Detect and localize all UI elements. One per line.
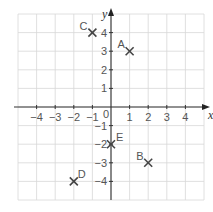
y-tick-label: −1 xyxy=(94,120,107,132)
origin-label: 0 xyxy=(103,108,109,120)
y-tick-label: 2 xyxy=(101,64,107,76)
axes: xy0 xyxy=(14,7,213,200)
coordinate-grid: xy0 −4−3−2−11234−4−3−2−11234 ABCDE xyxy=(0,0,213,212)
point-B: B xyxy=(136,150,152,167)
y-tick-label: 1 xyxy=(101,82,107,94)
y-axis-label: y xyxy=(101,7,108,21)
x-tick-label: 3 xyxy=(164,111,170,123)
y-tick-label: 3 xyxy=(101,45,107,57)
point-label: B xyxy=(136,150,143,162)
point-label: D xyxy=(78,168,86,180)
x-tick-label: 4 xyxy=(182,111,188,123)
x-tick-label: −2 xyxy=(68,111,81,123)
point-label: C xyxy=(79,20,87,32)
y-tick-label: 4 xyxy=(101,27,107,39)
y-tick-label: −2 xyxy=(94,138,107,150)
x-tick-label: 2 xyxy=(145,111,151,123)
point-C: C xyxy=(79,20,96,37)
point-label: E xyxy=(116,131,123,143)
y-axis-arrow-icon xyxy=(108,8,114,16)
y-tick-label: −4 xyxy=(94,175,107,187)
point-label: A xyxy=(118,38,126,50)
x-axis-label: x xyxy=(207,108,213,122)
point-A: A xyxy=(118,38,134,55)
point-E: E xyxy=(107,131,123,148)
x-tick-label: −4 xyxy=(30,111,43,123)
y-tick-label: −3 xyxy=(94,157,107,169)
x-tick-label: −3 xyxy=(49,111,62,123)
point-D: D xyxy=(70,168,86,185)
x-tick-label: 1 xyxy=(127,111,133,123)
